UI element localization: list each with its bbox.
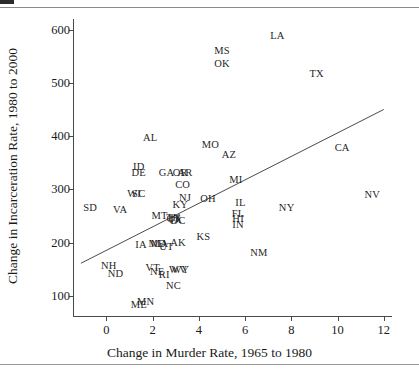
data-point-label: WY: [171, 265, 189, 276]
x-tick-mark: [245, 316, 246, 321]
x-tick-mark: [291, 316, 292, 321]
y-tick-label: 400: [51, 129, 70, 144]
data-point-label: MS: [214, 46, 230, 57]
data-point-label: IA: [135, 239, 146, 250]
data-point-label: NM: [250, 248, 267, 259]
data-point-label: NY: [279, 203, 295, 214]
data-point-label: NV: [364, 189, 380, 200]
x-tick-mark: [106, 316, 107, 321]
y-axis-title: Change in Incarceration Rate, 1980 to 20…: [5, 16, 21, 316]
x-tick-mark: [338, 316, 339, 321]
data-point-label: OK: [214, 59, 230, 70]
data-point-label: AZ: [222, 149, 236, 160]
x-tick-label: 8: [288, 323, 294, 338]
x-tick-label: 12: [378, 323, 391, 338]
data-point-label: CO: [175, 180, 190, 191]
x-tick-label: 0: [103, 323, 109, 338]
data-point-label: AR: [177, 168, 192, 179]
scatter-plot-figure: 100200300400500600024681012LAMSOKTXALMOA…: [0, 0, 419, 372]
x-tick-label: 4: [196, 323, 202, 338]
data-point-label: IL: [235, 197, 245, 208]
data-point-label: IN: [232, 220, 243, 231]
data-point-label: RI: [159, 270, 170, 281]
data-point-label: MO: [202, 140, 219, 151]
page-rule-bottom: [0, 364, 419, 365]
page-margin-mark: [0, 0, 14, 4]
plot-area: 100200300400500600024681012LAMSOKTXALMOA…: [73, 19, 392, 317]
y-tick-label: 200: [51, 235, 70, 250]
y-tick-label: 600: [51, 22, 70, 37]
y-tick-label: 300: [51, 182, 70, 197]
data-point-label: ND: [108, 269, 124, 280]
data-point-label: CA: [335, 143, 350, 154]
data-point-label: DC: [171, 216, 186, 227]
x-tick-label: 6: [242, 323, 248, 338]
data-point-label: SD: [83, 203, 97, 214]
y-tick-label: 500: [51, 75, 70, 90]
x-axis-title: Change in Murder Rate, 1965 to 1980: [0, 345, 419, 361]
x-tick-label: 2: [149, 323, 155, 338]
data-point-label: SC: [132, 188, 145, 199]
data-point-label: TX: [310, 69, 324, 80]
data-point-label: LA: [270, 31, 284, 42]
y-tick-label: 100: [51, 288, 70, 303]
page-rule-top: [0, 7, 419, 8]
data-point-label: MT: [151, 211, 167, 222]
data-point-label: KS: [197, 231, 211, 242]
x-tick-label: 10: [331, 323, 344, 338]
data-point-label: AK: [170, 238, 186, 249]
data-point-label: ME: [131, 300, 147, 311]
x-tick-mark: [153, 316, 154, 321]
x-tick-mark: [199, 316, 200, 321]
data-point-label: DE: [132, 168, 146, 179]
data-point-label: NC: [166, 281, 181, 292]
data-point-label: KY: [173, 199, 189, 210]
x-tick-mark: [384, 316, 385, 321]
data-point-label: OH: [200, 194, 216, 205]
data-point-label: AL: [143, 132, 157, 143]
data-point-label: VA: [113, 204, 127, 215]
data-point-label: MI: [229, 175, 242, 186]
